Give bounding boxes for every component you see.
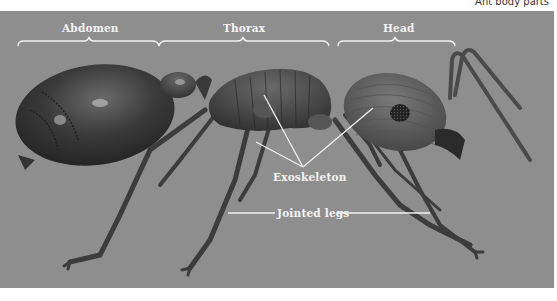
compound-eye	[390, 104, 410, 122]
thorax	[209, 69, 332, 131]
mandible	[435, 129, 465, 160]
label-thorax: Thorax	[223, 22, 265, 34]
head-bracket	[338, 37, 455, 46]
label-jointed-legs: Jointed legs	[277, 207, 349, 219]
ant-illustration	[0, 11, 554, 288]
abdomen	[9, 54, 181, 175]
abdomen-bracket	[18, 37, 159, 46]
region-brackets	[18, 37, 455, 46]
label-head: Head	[383, 22, 415, 34]
label-exoskeleton: Exoskeleton	[273, 171, 347, 183]
label-abdomen: Abdomen	[62, 22, 119, 34]
thorax-bracket	[159, 37, 329, 46]
diagram-panel: Abdomen Thorax Head Exoskeleton Jointed …	[0, 11, 554, 288]
figure-caption: Ant body parts	[475, 0, 549, 7]
